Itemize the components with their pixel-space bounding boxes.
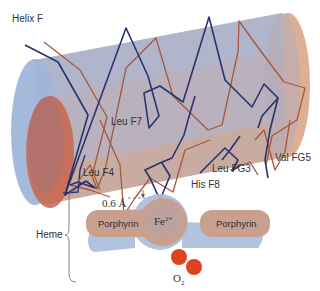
label-heme: Heme [36, 229, 63, 240]
label-oxygen: O2 [173, 272, 185, 287]
label-helix-f: Helix F [12, 13, 43, 24]
label-leu-f7: Leu F7 [111, 116, 143, 127]
label-leu-fg3: Leu FG3 [212, 163, 251, 174]
label-val-fg5: Val FG5 [275, 152, 311, 163]
helix-f-cylinder [11, 13, 310, 208]
label-distance: 0.6 Å [102, 197, 127, 209]
label-his-f8: His F8 [191, 179, 220, 190]
label-porphyrin-left: Porphyrin [98, 218, 139, 229]
label-leu-f4: Leu F4 [83, 167, 115, 178]
label-porphyrin-right: Porphyrin [216, 218, 257, 229]
hemoglobin-heme-diagram: Helix F Leu F7 Leu F4 Leu FG3 Val FG5 Hi… [0, 0, 320, 291]
oxygen-molecule: O2 [171, 249, 202, 287]
